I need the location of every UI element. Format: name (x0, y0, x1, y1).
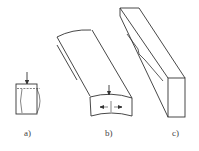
figure-a-load-arrow-head (25, 80, 28, 84)
figure-b-left-inner-edge (57, 45, 77, 80)
figure-b-left-arrow-head (100, 106, 104, 109)
figure-c-bottom-long-edge (120, 16, 168, 117)
figure-c-bar (120, 8, 185, 117)
figure-b-front-bottom-curve (91, 113, 132, 116)
figure-b-right-arrow-head (118, 106, 122, 109)
panel-label-b: b) (105, 129, 113, 138)
figure-b-right-edge (92, 30, 132, 98)
figure-b-front-left-edge (90, 97, 91, 116)
panel-label-a: a) (24, 129, 31, 138)
figure-c-front-face (168, 78, 185, 117)
figure-b-left-outer-edge (57, 37, 90, 96)
figure-b-back-top-arc (57, 30, 91, 37)
figure-b-front-top-curve (90, 94, 132, 98)
figure-c-top-right-long-edge (139, 8, 185, 78)
figure-a-right-bulge-curve (37, 89, 40, 113)
diagram-canvas: a) b) c) (0, 0, 199, 151)
figure-b-curved-slab (57, 30, 132, 116)
figure-a-specimen (16, 72, 40, 114)
figure-c-crack-line (127, 34, 163, 81)
panel-label-c: c) (172, 129, 179, 138)
figure-a-left-bulge-curve (21, 89, 23, 113)
